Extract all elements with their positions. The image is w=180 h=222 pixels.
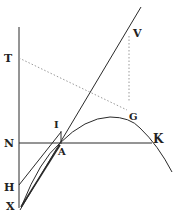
label-X: X: [6, 200, 15, 213]
label-V: V: [132, 27, 142, 40]
line-XA: [21, 145, 60, 207]
label-I: I: [54, 119, 59, 130]
label-K: K: [153, 132, 164, 146]
label-A: A: [57, 146, 66, 157]
geometry-diagram: T V I G N A K H X: [0, 0, 180, 222]
label-H: H: [4, 181, 14, 194]
label-G: G: [129, 111, 138, 122]
label-N: N: [4, 137, 14, 150]
dotted-line-TG: [19, 58, 127, 110]
curve-AGK: [22, 117, 172, 205]
label-T: T: [4, 52, 13, 65]
